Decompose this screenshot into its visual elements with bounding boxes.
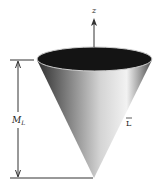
cone-figure: z ML L xyxy=(0,0,160,188)
cone-opening xyxy=(37,47,152,71)
cone-body xyxy=(37,60,152,178)
side-label: L xyxy=(126,119,132,128)
z-axis-label: z xyxy=(91,6,97,15)
dimension-label: ML xyxy=(11,115,25,126)
